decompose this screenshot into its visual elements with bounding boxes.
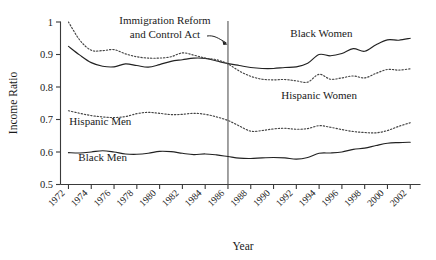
y-axis-title: Income Ratio — [7, 72, 19, 135]
series-labels: Black WomenHispanic WomenHispanic MenBla… — [69, 27, 357, 163]
y-tick-label: 0.9 — [40, 49, 53, 60]
chart-canvas: 0.50.60.70.80.91 19721974197619781980198… — [0, 0, 436, 260]
x-tick-label: 1972 — [46, 187, 67, 208]
x-axis: 1972197419761978198019821984198619881990… — [46, 185, 421, 209]
x-tick-label: 1980 — [137, 187, 158, 208]
y-tick-label: 0.8 — [40, 82, 53, 93]
y-tick-label: 1 — [48, 17, 53, 28]
x-tick-label: 1998 — [342, 187, 363, 208]
x-tick-label: 1996 — [319, 187, 340, 208]
x-tick-label: 1986 — [205, 187, 226, 208]
x-tick-label: 1976 — [91, 187, 112, 208]
income-ratio-line-chart: 0.50.60.70.80.91 19721974197619781980198… — [0, 0, 436, 260]
y-axis: 0.50.60.70.80.91 — [40, 17, 61, 191]
series-label-hispanic-men: Hispanic Men — [69, 115, 132, 127]
x-tick-label: 1974 — [68, 187, 89, 208]
y-tick-label: 0.5 — [40, 179, 53, 190]
annotation-line-2: and Control Act — [130, 28, 200, 40]
series-label-black-women: Black Women — [290, 27, 353, 39]
x-axis-title: Year — [232, 240, 253, 252]
x-tick-label: 1994 — [296, 187, 317, 208]
x-tick-label: 1992 — [273, 187, 294, 208]
chart-annotation: Immigration Reformand Control Act — [119, 14, 227, 45]
x-tick-label: 1984 — [182, 187, 203, 208]
x-tick-label: 1988 — [228, 187, 249, 208]
x-tick-label: 1982 — [159, 187, 180, 208]
series-lines — [68, 22, 410, 159]
x-tick-label: 1990 — [251, 187, 272, 208]
annotation-line-1: Immigration Reform — [119, 14, 211, 26]
annotation-arrowhead — [222, 41, 227, 45]
y-tick-label: 0.6 — [40, 147, 53, 158]
series-label-black-men: Black Men — [78, 151, 127, 163]
x-tick-label: 2000 — [365, 187, 386, 208]
y-tick-label: 0.7 — [40, 114, 53, 125]
x-tick-label: 2002 — [387, 187, 408, 208]
series-label-hispanic-women: Hispanic Women — [281, 89, 357, 101]
x-tick-label: 1978 — [114, 187, 135, 208]
series-line-black-women — [68, 38, 410, 68]
series-line-hispanic-women — [68, 22, 410, 82]
